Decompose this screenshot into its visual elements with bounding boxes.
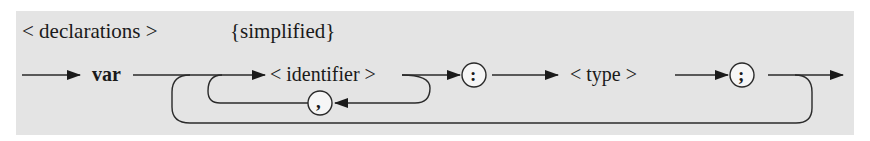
outer-loop-return [172,75,812,123]
nonterminal-type: < type > [570,63,637,86]
diagram-subtitle: {simplified} [230,19,335,43]
syntax-diagram: < declarations > {simplified} var < iden… [0,0,870,141]
keyword-var: var [92,63,121,85]
diagram-title: < declarations > [22,19,158,43]
nonterminal-identifier: < identifier > [270,63,376,85]
comma-label: , [316,91,321,112]
colon-label: : [470,64,476,85]
semicolon-label: ; [738,64,744,85]
